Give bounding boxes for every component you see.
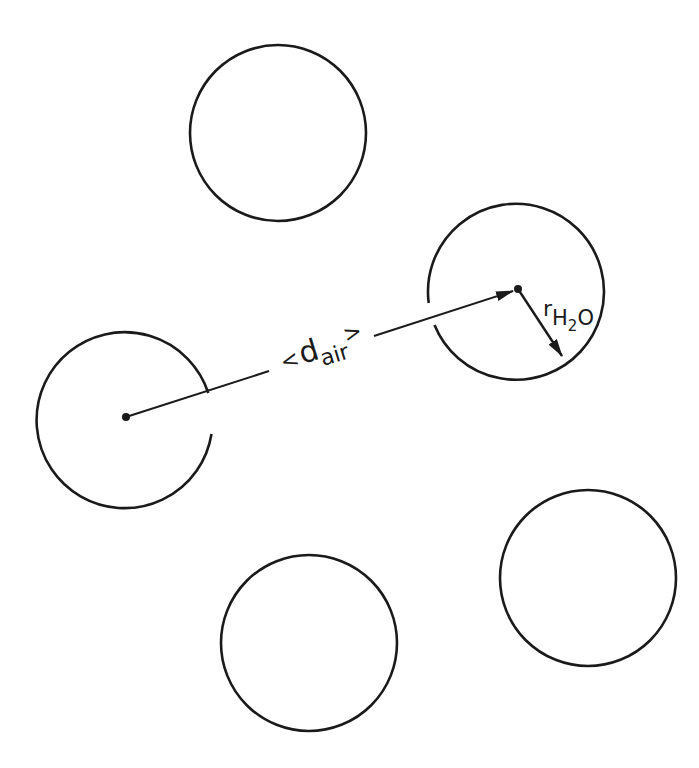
diagram-svg: <dair> rH2O: [0, 0, 699, 768]
distance-line-segment-1: [126, 371, 269, 417]
distance-arrow: [374, 291, 513, 336]
svg-text:rH2O: rH2O: [543, 296, 594, 335]
radius-label-sub-o: O: [577, 306, 594, 330]
distance-label: <dair>: [275, 318, 370, 383]
radius-label: rH2O: [543, 296, 594, 335]
molecule-bottom: [221, 555, 397, 731]
radius-label-sub-h: H: [552, 306, 568, 330]
molecule-top: [190, 45, 366, 221]
molecule-bottom-right: [500, 490, 676, 666]
diagram-canvas: <dair> rH2O: [0, 0, 699, 768]
svg-text:<dair>: <dair>: [275, 318, 370, 383]
radius-label-sub-2: 2: [568, 317, 578, 335]
